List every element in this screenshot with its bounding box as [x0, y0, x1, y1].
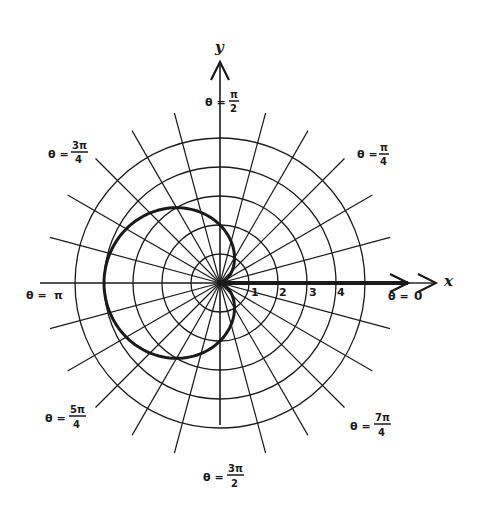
ring-tick-4: 4: [337, 286, 345, 299]
ring-tick-1: 1: [251, 286, 259, 299]
svg-text:π: π: [54, 289, 63, 302]
ring-tick-labels: 1 2 3 4: [251, 286, 345, 299]
svg-text:0: 0: [414, 289, 422, 303]
svg-text:θ =: θ =: [48, 148, 69, 161]
ring-tick-3: 3: [309, 286, 317, 299]
angle-label-pi-over-2: θ = π 2: [205, 89, 239, 114]
grid-radial-line: [68, 283, 220, 371]
svg-text:4: 4: [378, 427, 385, 438]
svg-text:π: π: [380, 142, 388, 153]
grid-radial-line: [220, 159, 345, 284]
angle-label-3pi-over-2: θ = 3π 2: [203, 463, 244, 489]
angle-label-pi: θ = π: [26, 289, 63, 302]
svg-text:4: 4: [75, 154, 82, 165]
svg-text:3π: 3π: [72, 140, 87, 151]
svg-text:3π: 3π: [228, 463, 243, 474]
angle-label-pi-over-4: θ = π 4: [357, 142, 389, 167]
svg-text:4: 4: [73, 419, 80, 430]
svg-text:4: 4: [380, 156, 387, 167]
y-axis-label: y: [214, 38, 225, 56]
angle-label-7pi-over-4: θ = 7π 4: [350, 412, 391, 438]
svg-text:θ =: θ =: [205, 96, 226, 109]
svg-text:π: π: [230, 89, 238, 100]
svg-text:2: 2: [230, 103, 237, 114]
polar-plot: y x 1 2 3 4 θ = 0 θ = π 4 θ = π 2 θ = 3π…: [0, 0, 477, 527]
svg-text:θ =: θ =: [350, 420, 371, 433]
svg-text:2: 2: [231, 478, 238, 489]
grid-radial-line: [96, 283, 221, 408]
svg-text:θ =: θ =: [203, 471, 224, 484]
svg-text:5π: 5π: [70, 404, 85, 415]
x-axis-label: x: [443, 272, 454, 290]
grid-radial-line: [68, 195, 220, 283]
svg-text:θ =: θ =: [388, 290, 409, 303]
angle-label-5pi-over-4: θ = 5π 4: [45, 404, 86, 430]
ring-tick-2: 2: [279, 286, 287, 299]
svg-text:θ =: θ =: [45, 412, 66, 425]
grid-radial-line: [220, 283, 372, 371]
svg-text:7π: 7π: [375, 412, 390, 423]
svg-text:θ =: θ =: [357, 148, 378, 161]
grid-radial-line: [220, 283, 345, 408]
svg-text:θ =: θ =: [26, 289, 47, 302]
angle-label-0: θ = 0: [388, 289, 422, 303]
grid-radial-line: [96, 159, 221, 284]
grid-radial-line: [220, 195, 372, 283]
angle-label-3pi-over-4: θ = 3π 4: [48, 140, 88, 165]
